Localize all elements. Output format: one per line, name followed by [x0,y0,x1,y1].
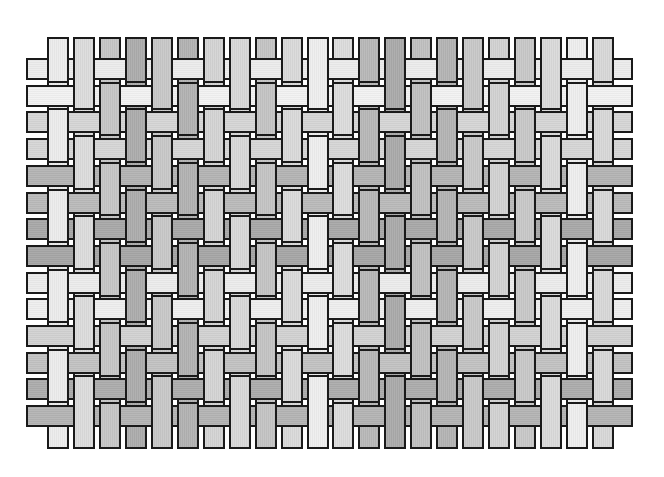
warp-tile [151,215,173,270]
warp-tile [384,375,406,449]
warp-tile [255,402,277,449]
warp-tile [358,37,380,83]
warp-tile [203,108,225,163]
warp-tile [384,295,406,350]
warp-tile [514,349,536,404]
warp-tile [307,375,329,449]
warp-tile [410,162,432,217]
warp-tile [73,295,95,350]
warp-tile [462,215,484,270]
warp-tile [436,37,458,83]
warp-tile [514,108,536,163]
warp-tile [99,162,121,217]
warp-tile [592,349,614,404]
warp-tile [125,269,147,324]
warp-tile [229,37,251,110]
warp-tile [177,402,199,449]
warp-tile [151,37,173,110]
warp-tile [47,108,69,163]
warp-tile [436,349,458,404]
warp-tile [332,402,354,449]
warp-tile [540,375,562,449]
warp-tile [281,108,303,163]
warp-tile [566,242,588,297]
warp-tile [592,269,614,324]
warp-tile [73,375,95,449]
warp-tile [99,82,121,137]
warp-tile [151,295,173,350]
warp-tile [436,189,458,244]
warp-tile [488,162,510,217]
warp-tile [462,375,484,449]
warp-tile [540,215,562,270]
warp-tile [99,322,121,377]
warp-tile [73,135,95,190]
warp-tile [203,189,225,244]
warp-tile [332,82,354,137]
warp-tile [125,349,147,404]
warp-tile [592,108,614,163]
warp-tile [488,322,510,377]
warp-tile [488,82,510,137]
warp-tile [384,135,406,190]
warp-tile [229,295,251,350]
warp-tile [410,242,432,297]
warp-tile [358,269,380,324]
warp-tile [592,37,614,83]
warp-tile [488,242,510,297]
warp-tile [177,162,199,217]
warp-tile [488,402,510,449]
warp-tile [358,349,380,404]
warp-tile [255,322,277,377]
warp-tile [47,189,69,244]
warp-tile [307,37,329,110]
warp-tile [307,295,329,350]
warp-tile [566,162,588,217]
warp-tile [592,189,614,244]
warp-tile [73,37,95,110]
warp-tile [436,269,458,324]
warp-tile [540,37,562,110]
warp-tile [332,322,354,377]
warp-tile [566,402,588,449]
warp-tile [566,82,588,137]
warp-tile [177,82,199,137]
warp-tile [514,37,536,83]
warp-tile [384,37,406,110]
warp-tile [177,242,199,297]
warp-tile [332,242,354,297]
warp-tile [99,402,121,449]
warp-tile [151,375,173,449]
warp-tile [47,37,69,83]
warp-tile [99,242,121,297]
warp-tile [125,189,147,244]
warp-tile [358,108,380,163]
warp-tile [462,295,484,350]
warp-tile [203,349,225,404]
warp-tile [255,162,277,217]
warp-tile [281,349,303,404]
warp-tile [255,242,277,297]
twill-weave-pattern [0,0,664,477]
warp-tile [410,82,432,137]
warp-tile [540,295,562,350]
warp-tile [384,215,406,270]
warp-tile [281,269,303,324]
warp-tile [540,135,562,190]
warp-tile [125,37,147,83]
warp-tile [410,402,432,449]
warp-tile [255,82,277,137]
warp-tile [462,37,484,110]
warp-tile [229,375,251,449]
warp-tile [47,269,69,324]
warp-tile [514,189,536,244]
warp-tile [151,135,173,190]
warp-tile [462,135,484,190]
warp-tile [332,162,354,217]
warp-tile [281,37,303,83]
warp-tile [307,135,329,190]
warp-tile [125,108,147,163]
warp-tile [47,349,69,404]
warp-tile [566,322,588,377]
warp-tile [307,215,329,270]
